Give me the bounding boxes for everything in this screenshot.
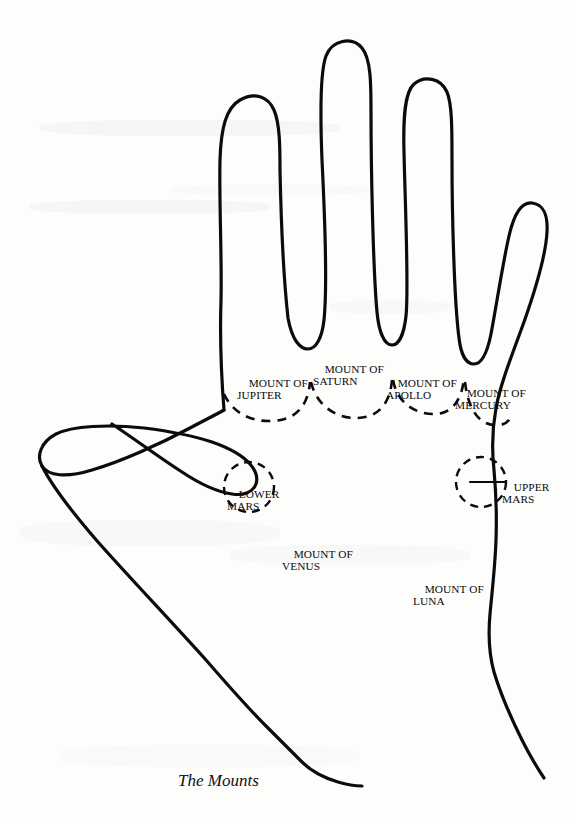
- hand-outline-thumb-lower: [42, 466, 362, 786]
- label-line-1: LOWER: [239, 488, 280, 500]
- figure-page: MOUNT OFJUPITER MOUNT OFSATURN MOUNT OFA…: [0, 0, 570, 822]
- label-line-1: MOUNT OF: [249, 377, 308, 389]
- label-line-2: JUPITER: [237, 390, 308, 402]
- label-line-2: APOLLO: [386, 390, 457, 402]
- label-mount-of-venus: MOUNT OFVENUS: [282, 537, 353, 596]
- label-mount-of-jupiter: MOUNT OFJUPITER: [237, 366, 308, 425]
- label-mount-of-saturn: MOUNT OFSATURN: [313, 352, 384, 411]
- label-line-2: MARS: [502, 494, 549, 506]
- label-line-2: LUNA: [413, 596, 484, 608]
- label-mount-of-apollo: MOUNT OFAPOLLO: [386, 366, 457, 425]
- hand-outline-thumb-upper: [40, 410, 257, 495]
- label-line-1: UPPER: [514, 481, 550, 493]
- label-line-1: MOUNT OF: [398, 377, 457, 389]
- label-line-2: VENUS: [282, 561, 353, 573]
- label-mount-of-mercury: MOUNT OFMERCURY: [455, 376, 526, 435]
- label-upper-mars: UPPERMARS: [502, 470, 549, 529]
- label-line-2: SATURN: [313, 376, 384, 388]
- label-line-2: MARS: [227, 501, 279, 513]
- label-mount-of-luna: MOUNT OFLUNA: [413, 572, 484, 631]
- label-line-2: MERCURY: [455, 400, 526, 412]
- label-lower-mars: LOWERMARS: [227, 477, 279, 536]
- label-line-1: MOUNT OF: [294, 548, 353, 560]
- figure-caption: The Mounts: [178, 771, 259, 791]
- label-line-1: MOUNT OF: [467, 387, 526, 399]
- label-line-1: MOUNT OF: [325, 363, 384, 375]
- label-line-1: MOUNT OF: [425, 583, 484, 595]
